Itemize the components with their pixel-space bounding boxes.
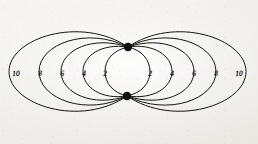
- axis-label-right-2: 2: [148, 70, 152, 78]
- axis-label-right-6: 6: [192, 70, 196, 78]
- axis-label-right-10: 10: [235, 70, 243, 78]
- axis-label-left-6: 6: [60, 70, 64, 78]
- axis-label-right-8: 8: [214, 70, 218, 78]
- axis-label-left-10: 10: [12, 70, 20, 78]
- axis-label-right-4: 4: [170, 70, 174, 78]
- lower-pole-dot: [123, 92, 131, 100]
- pole-markers-group: [123, 43, 132, 100]
- upper-pole-dot: [124, 43, 132, 51]
- field-line-right-2: [127, 47, 150, 96]
- field-line-left-10: [9, 32, 128, 112]
- field-line-left-2: [105, 47, 128, 96]
- axis-label-left-4: 4: [82, 70, 86, 78]
- axis-label-left-8: 8: [38, 70, 42, 78]
- field-line-figure: 10 8 6 4 2 2 4 6 8 10: [0, 0, 258, 144]
- field-line-right-6: [127, 43, 194, 101]
- field-line-left-6: [61, 43, 128, 101]
- field-line-right-10: [127, 32, 246, 112]
- axis-label-left-2: 2: [103, 70, 107, 78]
